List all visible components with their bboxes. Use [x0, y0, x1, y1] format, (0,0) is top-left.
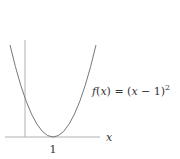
parabola-curve	[10, 45, 96, 137]
tick-label-1: 1	[50, 143, 57, 156]
x-axis-label: x	[106, 131, 113, 144]
function-graph: x 1 f(x) = (x − 1)2	[0, 0, 180, 159]
function-label: f(x) = (x − 1)2	[91, 83, 170, 98]
